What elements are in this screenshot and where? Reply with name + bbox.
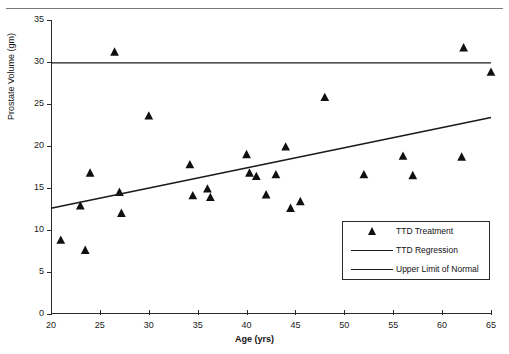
x-tick-label-25: 25 [85, 320, 115, 330]
x-tick-label-65: 65 [476, 320, 506, 330]
data-point [144, 111, 153, 119]
series-line-ttd-regression [51, 117, 491, 208]
x-tick-label-35: 35 [183, 320, 213, 330]
data-point [457, 152, 466, 160]
x-tick-label-55: 55 [378, 320, 408, 330]
x-tick-65 [491, 310, 492, 315]
triangle-icon [368, 227, 376, 235]
data-point [188, 191, 197, 199]
chart-page: Prostate Volume (gm) 0510152025303520253… [0, 0, 509, 354]
y-tick-label-25: 25 [23, 98, 44, 108]
x-tick-label-50: 50 [329, 320, 359, 330]
x-tick-label-45: 45 [280, 320, 310, 330]
data-point [399, 151, 408, 159]
data-point [206, 193, 215, 201]
x-axis-title: Age (yrs) [0, 334, 509, 344]
chart-legend: TTD TreatmentTTD RegressionUpper Limit o… [342, 221, 490, 280]
data-point [487, 67, 496, 75]
line-icon [351, 250, 393, 251]
data-point [459, 43, 468, 51]
data-point [360, 170, 369, 178]
data-point [110, 47, 119, 55]
y-tick-label-20: 20 [23, 140, 44, 150]
x-tick-label-30: 30 [134, 320, 164, 330]
page-header-rule [6, 8, 503, 9]
legend-label: TTD Treatment [396, 222, 453, 241]
data-point [296, 197, 305, 205]
data-point [286, 204, 295, 212]
data-point [262, 190, 271, 198]
data-point [185, 160, 194, 168]
x-tick-label-60: 60 [427, 320, 457, 330]
y-tick-label-5: 5 [23, 266, 44, 276]
y-tick-label-10: 10 [23, 224, 44, 234]
x-tick-label-20: 20 [36, 320, 66, 330]
line-icon [351, 269, 393, 270]
data-point [81, 246, 90, 254]
legend-label: TTD Regression [396, 241, 458, 260]
data-point [86, 168, 95, 176]
y-axis-title: Prostate Volume (gm) [6, 106, 16, 120]
data-point [117, 209, 126, 217]
data-point [408, 171, 417, 179]
legend-row-upper-limit-of-normal: Upper Limit of Normal [343, 260, 489, 279]
data-point [242, 150, 251, 158]
legend-line-swatch-icon [349, 260, 395, 279]
legend-row-ttd-treatment: TTD Treatment [343, 222, 489, 241]
legend-row-ttd-regression: TTD Regression [343, 241, 489, 260]
data-point [320, 93, 329, 101]
legend-triangle-marker-icon [349, 222, 395, 241]
y-tick-label-35: 35 [23, 14, 44, 24]
y-tick-label-30: 30 [23, 56, 44, 66]
legend-label: Upper Limit of Normal [396, 260, 479, 279]
legend-line-swatch-icon [349, 241, 395, 260]
data-point [203, 184, 212, 192]
data-point [56, 235, 65, 243]
x-tick-label-40: 40 [232, 320, 262, 330]
data-point [281, 142, 290, 150]
page-header [0, 0, 509, 11]
y-tick-label-15: 15 [23, 182, 44, 192]
y-tick-label-0: 0 [23, 308, 44, 318]
data-point [245, 168, 254, 176]
data-point [272, 170, 281, 178]
